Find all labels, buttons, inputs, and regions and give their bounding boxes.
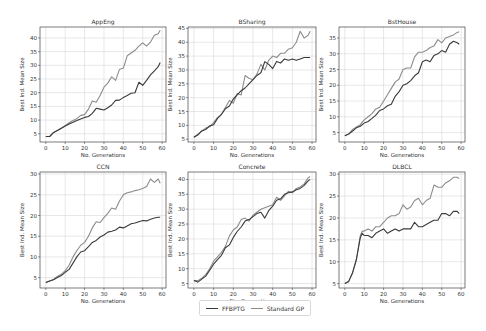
figure: 0102030405060510152025303540AppEngNo. Ge… xyxy=(0,0,486,331)
x-tick-label: 0 xyxy=(44,291,48,297)
subplot-title: Concrete xyxy=(238,163,265,170)
x-tick-label: 0 xyxy=(343,145,347,151)
x-axis-label: No. Generations xyxy=(81,298,126,304)
series-line-ffbptg xyxy=(194,179,310,282)
x-tick-label: 10 xyxy=(361,291,368,297)
y-tick-label: 10 xyxy=(329,259,336,265)
x-tick-label: 10 xyxy=(361,145,368,151)
x-tick-label: 40 xyxy=(419,145,426,151)
x-tick-label: 40 xyxy=(269,145,276,151)
y-tick-label: 10 xyxy=(178,266,185,272)
x-tick-label: 60 xyxy=(309,145,316,151)
y-tick-label: 30 xyxy=(329,171,336,177)
y-tick-label: 20 xyxy=(329,215,336,221)
x-tick-label: 0 xyxy=(44,145,48,151)
y-tick-label: 5 xyxy=(333,281,337,287)
x-tick-label: 20 xyxy=(380,291,387,297)
legend-item-standard-gp: Standard GP xyxy=(251,305,304,312)
y-tick-label: 15 xyxy=(178,109,185,115)
y-tick-label: 35 xyxy=(30,49,37,55)
y-tick-label: 20 xyxy=(30,90,37,96)
x-tick-label: 20 xyxy=(81,291,88,297)
y-tick-label: 15 xyxy=(329,98,336,104)
series-line-standard-gp xyxy=(46,30,160,136)
y-tick-label: 10 xyxy=(30,117,37,123)
y-tick-label: 5 xyxy=(333,130,337,136)
y-tick-label: 35 xyxy=(178,191,185,197)
x-tick-label: 50 xyxy=(438,145,445,151)
series-line-standard-gp xyxy=(345,177,459,283)
x-tick-label: 0 xyxy=(192,291,196,297)
subplot-bsharing: 010203040506051015202530354045BSharingNo… xyxy=(167,18,316,158)
x-axis-label: No. Generations xyxy=(380,298,425,304)
x-tick-label: 10 xyxy=(62,145,69,151)
series-line-ffbptg xyxy=(345,41,459,136)
x-tick-label: 60 xyxy=(458,145,465,151)
x-tick-label: 50 xyxy=(438,291,445,297)
y-tick-label: 40 xyxy=(178,176,185,182)
subplot-title: BSharing xyxy=(238,18,265,26)
legend: FFBPTG Standard GP xyxy=(199,300,311,316)
legend-label-standard-gp: Standard GP xyxy=(267,305,304,312)
x-tick-label: 20 xyxy=(380,145,387,151)
x-tick-label: 50 xyxy=(139,145,146,151)
x-tick-label: 30 xyxy=(399,291,406,297)
axes-frame xyxy=(188,27,316,142)
legend-label-ffbptg: FFBPTG xyxy=(222,305,245,312)
x-tick-label: 10 xyxy=(62,291,69,297)
axes-frame xyxy=(40,27,166,142)
subplot-concrete: 0102030405060510152025303540ConcreteNo. … xyxy=(167,163,316,304)
subplot-title: BstHouse xyxy=(388,18,417,25)
x-tick-label: 60 xyxy=(159,145,166,151)
y-tick-label: 30 xyxy=(329,51,336,57)
y-tick-label: 20 xyxy=(329,82,336,88)
x-tick-label: 60 xyxy=(309,291,316,297)
x-tick-label: 30 xyxy=(249,145,256,151)
x-tick-label: 40 xyxy=(269,291,276,297)
x-tick-label: 50 xyxy=(289,145,296,151)
y-tick-label: 5 xyxy=(182,136,186,142)
y-tick-label: 10 xyxy=(178,122,185,128)
x-tick-label: 20 xyxy=(230,145,237,151)
x-tick-label: 40 xyxy=(120,145,127,151)
y-tick-label: 10 xyxy=(329,114,336,120)
y-tick-label: 40 xyxy=(30,35,37,41)
subplot-title: DLBCL xyxy=(392,163,412,170)
legend-item-ffbptg: FFBPTG xyxy=(206,305,245,312)
y-tick-label: 30 xyxy=(30,62,37,68)
y-tick-label: 25 xyxy=(30,76,37,82)
y-tick-label: 20 xyxy=(178,236,185,242)
x-tick-label: 40 xyxy=(120,291,127,297)
y-axis-label: Best Ind. Mean Size xyxy=(318,202,324,257)
x-tick-label: 50 xyxy=(139,291,146,297)
legend-swatch-ffbptg xyxy=(206,308,218,309)
y-tick-label: 30 xyxy=(30,171,37,177)
y-tick-label: 15 xyxy=(329,237,336,243)
subplot-dlbcl: 010203040506051015202530DLBCLNo. Generat… xyxy=(318,163,465,304)
x-tick-label: 0 xyxy=(343,291,347,297)
y-tick-label: 25 xyxy=(178,81,185,87)
x-tick-label: 20 xyxy=(81,145,88,151)
axes-frame xyxy=(339,27,465,142)
y-tick-label: 35 xyxy=(329,35,336,41)
y-tick-label: 25 xyxy=(178,221,185,227)
subplot-ccn: 010203040506051015202530CCNNo. Generatio… xyxy=(19,163,166,304)
subplot-bsthouse: 01020304050605101520253035BstHouseNo. Ge… xyxy=(318,18,465,158)
y-tick-label: 5 xyxy=(182,281,186,287)
y-tick-label: 30 xyxy=(178,67,185,73)
y-tick-label: 10 xyxy=(30,254,37,260)
y-tick-label: 30 xyxy=(178,206,185,212)
x-axis-label: No. Generations xyxy=(81,152,126,158)
subplot-title: CCN xyxy=(97,163,110,170)
subplot-title: AppEng xyxy=(91,18,114,26)
y-tick-label: 25 xyxy=(30,192,37,198)
series-line-ffbptg xyxy=(46,63,160,137)
y-tick-label: 20 xyxy=(30,213,37,219)
series-line-standard-gp xyxy=(194,31,310,137)
y-tick-label: 25 xyxy=(329,193,336,199)
series-line-standard-gp xyxy=(345,32,459,136)
y-tick-label: 20 xyxy=(178,95,185,101)
y-tick-label: 15 xyxy=(178,251,185,257)
x-tick-label: 30 xyxy=(399,145,406,151)
y-tick-label: 15 xyxy=(30,103,37,109)
